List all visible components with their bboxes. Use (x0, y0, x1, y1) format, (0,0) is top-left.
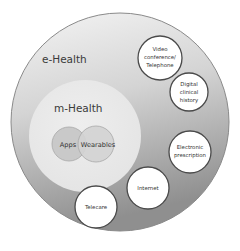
ehealth-diagram: e-Health m-Health Apps Wearables Video c… (0, 0, 240, 251)
video-line-3: Telephone (145, 62, 174, 69)
digital-line-2: clinical (180, 89, 199, 95)
digital-line-1: Digital (180, 81, 197, 88)
electronic-prescription-circle: Electronic prescription (169, 131, 211, 173)
apps-label: Apps (60, 141, 77, 149)
video-line-1: Video (152, 46, 167, 52)
digital-line-3: history (180, 97, 199, 104)
video-conference-circle: Video conference/ Telephone (138, 36, 182, 80)
mhealth-label: m-Health (54, 102, 103, 114)
wearables-label: Wearables (81, 141, 116, 149)
telecare-label: Telecare (84, 204, 108, 210)
internet-label: Internet (137, 185, 158, 191)
internet-circle: Internet (127, 167, 169, 209)
video-line-2: conference/ (144, 54, 176, 60)
ehealth-label: e-Health (42, 53, 87, 65)
electronic-line-2: prescription (174, 152, 206, 159)
digital-clinical-history-circle: Digital clinical history (170, 73, 208, 111)
electronic-line-1: Electronic (177, 144, 204, 150)
telecare-circle: Telecare (75, 186, 117, 228)
